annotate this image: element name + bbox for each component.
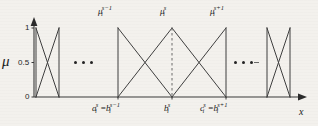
- base-label-left-sup: s: [96, 101, 99, 108]
- base-label-right-sub: i: [216, 107, 218, 114]
- x-axis-label: x: [299, 107, 303, 117]
- ellipsis-dot: [234, 61, 237, 64]
- peak-label-sub: i: [163, 10, 165, 17]
- membership-triangles-right: [267, 28, 290, 97]
- base-label-b-i-s: bis: [164, 104, 173, 113]
- peak-label-sub: i: [101, 10, 103, 17]
- base-label-left-sup: s: [168, 101, 171, 108]
- peak-label-sub: i: [213, 10, 215, 17]
- peak-label-s: μis: [160, 7, 169, 16]
- y-tick-label-0: 0: [25, 93, 29, 101]
- peak-label-s-minus-1: μis−1: [98, 7, 115, 16]
- y-tick-label-0-5: 0.5: [18, 59, 29, 67]
- membership-triangles-left: [36, 28, 59, 97]
- ellipsis-dot: [250, 61, 253, 64]
- y-axis-label: μ: [2, 54, 10, 69]
- y-axis-arrowhead: [31, 17, 38, 26]
- base-label-c-i-s: cis=bis+1: [200, 104, 230, 113]
- base-label-left-sup: s: [203, 101, 206, 108]
- x-axis-arrowhead: [298, 94, 307, 101]
- peak-label-s-plus-1: μis+1: [210, 7, 227, 16]
- membership-plot: [0, 0, 318, 126]
- y-tick-label-1: 1: [25, 24, 29, 32]
- base-label-a-i-s: ais=bis−1: [92, 104, 122, 113]
- base-label-right-sub: i: [109, 107, 111, 114]
- peak-label-sup: s+1: [214, 4, 224, 11]
- base-label-left-sub: i: [167, 107, 169, 114]
- base-label-right-sup: s+1: [217, 101, 227, 108]
- right-ellipsis: [234, 61, 253, 64]
- peak-label-sup: s−1: [102, 4, 112, 11]
- fuzzy-membership-figure: 1 0.5 0 μ x μis−1 μis μis+1 ais=bis−1 bi…: [0, 0, 318, 126]
- left-ellipsis: [74, 61, 93, 64]
- ellipsis-dot: [82, 61, 85, 64]
- ellipsis-dot: [242, 61, 245, 64]
- ellipsis-dot: [90, 61, 93, 64]
- ellipsis-dot: [74, 61, 77, 64]
- base-label-right-sup: s−1: [110, 101, 120, 108]
- base-label-left-sub: i: [95, 107, 97, 114]
- peak-label-sup: s: [164, 4, 167, 11]
